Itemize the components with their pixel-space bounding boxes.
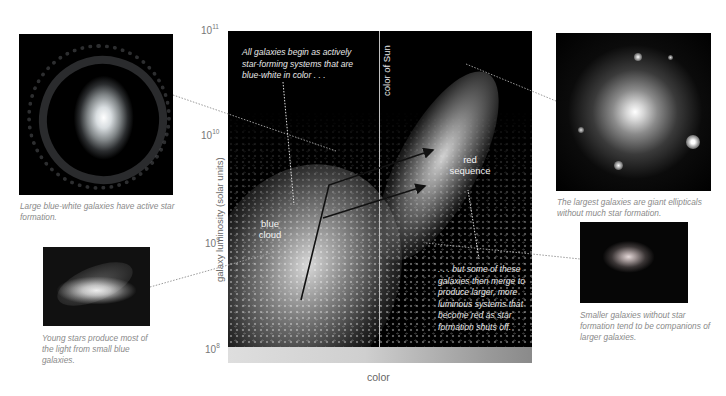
- top-annotation-leader: [283, 82, 294, 205]
- evolution-arrow-lower: [323, 186, 425, 218]
- small-elliptical-leader-line: [426, 243, 580, 259]
- bottom-annotation-leader: [468, 190, 479, 259]
- evolution-arrow-upper: [301, 150, 433, 300]
- irregular-leader-line: [150, 251, 278, 287]
- spiral-leader-line: [173, 95, 336, 151]
- elliptical-leader-line: [466, 64, 556, 101]
- leader-lines-overlay: [0, 0, 726, 396]
